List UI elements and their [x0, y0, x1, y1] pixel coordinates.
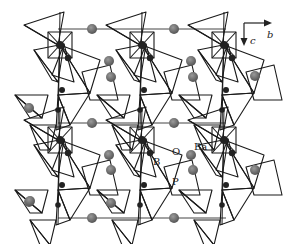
label-oxygen: O [172, 146, 180, 157]
chain-atom [141, 87, 147, 93]
chain-atom [56, 41, 64, 49]
chain-atom [229, 150, 235, 156]
chain-atom [147, 55, 153, 61]
barium-atom [104, 56, 114, 66]
chain-atom [229, 55, 235, 61]
barium-atom [169, 118, 179, 128]
barium-atom [188, 72, 198, 82]
barium-atom [106, 165, 116, 175]
chain-atom [65, 150, 71, 156]
chain-atom [141, 182, 147, 188]
barium-atom [104, 150, 114, 160]
chain-atom [220, 41, 228, 49]
chain-atom [59, 182, 65, 188]
chain-atom [223, 182, 229, 188]
barium-atom [250, 165, 260, 175]
barium-atom [250, 71, 260, 81]
chain-atom [55, 202, 61, 208]
chain-atom [137, 202, 143, 208]
label-phosphorus: P [172, 176, 179, 187]
chain-atom [138, 136, 146, 144]
barium-atom [87, 118, 97, 128]
barium-atom [186, 56, 196, 66]
barium-atom [106, 72, 116, 82]
crystal-structure-figure: b c B O P Ba [0, 0, 287, 244]
barium-atom [25, 196, 35, 206]
chain-atom [65, 55, 71, 61]
barium-atom [169, 24, 179, 34]
label-boron: B [153, 156, 160, 167]
barium-atom [87, 213, 97, 223]
structure-canvas: b c B O P Ba [0, 0, 287, 244]
axis-b-label: b [267, 29, 273, 40]
chain-atom [56, 136, 64, 144]
barium-atom [24, 103, 34, 113]
chain-atom [220, 136, 228, 144]
chain-atom [59, 87, 65, 93]
barium-atom [188, 165, 198, 175]
chain-atom [138, 41, 146, 49]
barium-atom [87, 24, 97, 34]
barium-atom [106, 198, 116, 208]
chain-atom [223, 87, 229, 93]
barium-atom [169, 213, 179, 223]
chain-atom [219, 202, 225, 208]
axis-c-label: c [250, 35, 256, 46]
label-barium: Ba [194, 141, 207, 152]
